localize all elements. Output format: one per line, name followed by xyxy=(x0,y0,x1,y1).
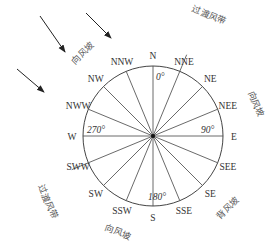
zone-label: 过渡风带 xyxy=(191,3,228,27)
zone-label: 向风坡 xyxy=(246,89,267,118)
direction-label-sww: SWW xyxy=(67,162,90,172)
direction-label-ne: NE xyxy=(204,74,217,84)
direction-label-nww: NWW xyxy=(66,101,91,111)
direction-label-nne: NNE xyxy=(174,57,194,67)
degree-label: 270° xyxy=(87,125,105,135)
wind-arrow-icon xyxy=(40,16,65,52)
direction-label-s: S xyxy=(150,213,155,223)
zone-label: 过渡风带 xyxy=(36,183,60,220)
direction-label-n: N xyxy=(150,51,157,61)
direction-label-sw: SW xyxy=(89,189,103,199)
direction-label-se: SE xyxy=(205,189,216,199)
wind-arrow-icon xyxy=(17,69,44,92)
direction-label-sse: SSE xyxy=(176,206,193,216)
zone-label: 向风坡 xyxy=(104,222,133,242)
degree-label: 0° xyxy=(156,72,165,82)
spoke-ne xyxy=(153,87,202,136)
degree-label: 180° xyxy=(148,192,166,202)
direction-label-see: SEE xyxy=(219,162,236,172)
spoke-sw xyxy=(104,136,153,185)
zone-label: 向风坡 xyxy=(69,39,96,66)
direction-label-w: W xyxy=(68,132,77,142)
wind-rose-diagram: NNNENENEEESEESESSESSSWSWSWWWNWWNWNNW 0°9… xyxy=(0,0,280,249)
direction-label-nw: NW xyxy=(88,74,104,84)
direction-label-nee: NEE xyxy=(219,101,238,111)
wind-arrow-icon xyxy=(86,13,111,38)
direction-label-ssw: SSW xyxy=(112,206,132,216)
spoke-se xyxy=(153,136,202,185)
zone-label: 背风坡 xyxy=(214,194,241,221)
direction-label-nnw: NNW xyxy=(111,57,134,67)
degree-label: 90° xyxy=(201,125,215,135)
center-hub xyxy=(151,134,155,138)
spoke-nw xyxy=(104,87,153,136)
direction-label-e: E xyxy=(231,132,237,142)
